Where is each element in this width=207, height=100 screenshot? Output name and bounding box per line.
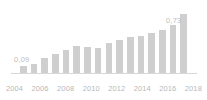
bar-slot — [71, 8, 82, 73]
bar-slot — [146, 8, 157, 73]
bar — [20, 66, 27, 73]
bar — [148, 33, 155, 73]
bar-series — [18, 8, 189, 73]
x-axis-tick: 2006 — [32, 84, 49, 93]
bar-slot — [61, 8, 72, 73]
bar-slot — [125, 8, 136, 73]
data-label-last: 0,73 — [166, 16, 181, 25]
bar — [52, 54, 59, 73]
bar — [127, 37, 134, 73]
x-axis-line — [11, 73, 197, 74]
bar — [138, 36, 145, 73]
bar — [41, 58, 48, 73]
x-axis-tick: 2016 — [159, 84, 176, 93]
bar-slot — [50, 8, 61, 73]
bar — [170, 25, 177, 73]
bar-slot — [114, 8, 125, 73]
x-axis-tick: 2004 — [6, 84, 23, 93]
x-axis-tick: 2012 — [108, 84, 125, 93]
bar — [159, 30, 166, 73]
x-axis-tick: 2008 — [57, 84, 74, 93]
bar — [84, 47, 91, 73]
bar — [116, 40, 123, 73]
bar-slot — [29, 8, 40, 73]
bar — [63, 50, 70, 73]
bar — [95, 48, 102, 73]
x-axis-tick: 2010 — [83, 84, 100, 93]
data-label-first: 0,09 — [14, 55, 29, 64]
bar — [31, 64, 38, 73]
bar-slot — [39, 8, 50, 73]
x-axis-tick: 2018 — [185, 84, 202, 93]
x-axis-tick: 2014 — [134, 84, 151, 93]
bar — [106, 43, 113, 73]
plot-area — [18, 8, 189, 73]
bar-slot — [104, 8, 115, 73]
bar-slot — [93, 8, 104, 73]
bar — [73, 46, 80, 73]
bar-slot — [82, 8, 93, 73]
x-axis-tick-labels: 20042006200820102012201420162018 — [6, 84, 202, 93]
bar-slot — [136, 8, 147, 73]
bar-chart: 0,09 0,73 200420062008201020122014201620… — [0, 0, 207, 100]
